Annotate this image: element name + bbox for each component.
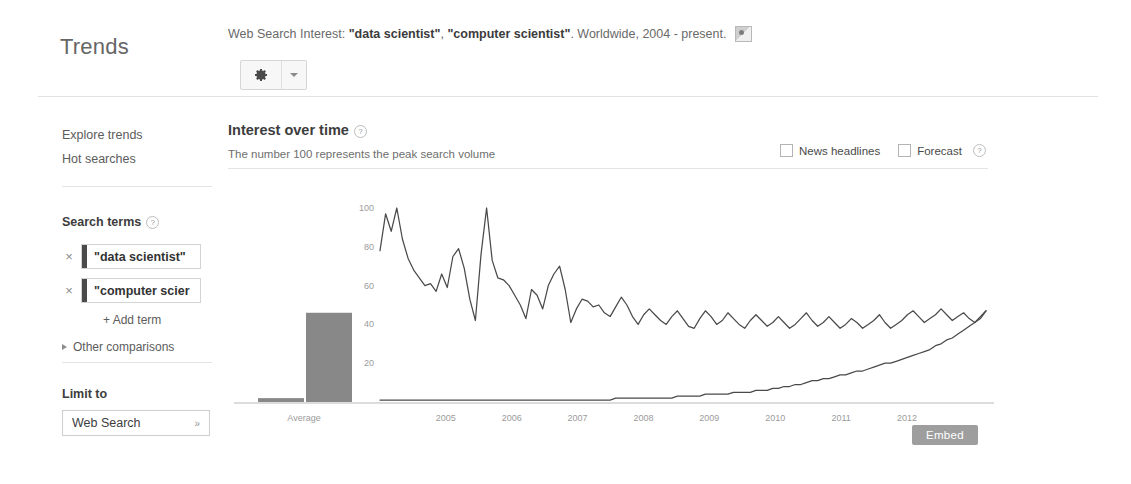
other-comparisons-toggle[interactable]: Other comparisons	[62, 340, 174, 354]
trends-chart[interactable]: 20406080100Average2005200620072008200920…	[228, 174, 998, 464]
settings-button-group[interactable]	[240, 60, 307, 90]
y-axis-tick-100: 100	[359, 203, 374, 213]
search-terms-label: Search terms	[62, 215, 141, 229]
interest-over-time-subtitle: The number 100 represents the peak searc…	[228, 148, 495, 160]
other-comparisons-label: Other comparisons	[73, 340, 174, 354]
sidebar-divider-top	[62, 186, 212, 187]
image-thumbnail-icon[interactable]	[735, 26, 752, 42]
search-term-input-2[interactable]: "computer scier	[81, 278, 201, 303]
chart-options: News headlines Forecast ?	[780, 144, 986, 157]
x-axis-tick-2012: 2012	[897, 413, 917, 423]
title-suffix: . Worldwide, 2004 - present.	[570, 27, 726, 41]
chevron-down-icon[interactable]	[282, 61, 306, 89]
search-term-input-2-value: "computer scier	[87, 284, 190, 298]
x-axis-tick-2007: 2007	[568, 413, 588, 423]
average-axis-label: Average	[287, 413, 320, 423]
series-line-1[interactable]	[380, 208, 986, 328]
search-term-input-1[interactable]: "data scientist"	[81, 244, 201, 269]
sidebar: Explore trends Hot searches Search terms…	[0, 110, 226, 484]
search-term-input-1-value: "data scientist"	[87, 250, 186, 264]
embed-button[interactable]: Embed	[912, 425, 978, 445]
x-axis-tick-2006: 2006	[502, 413, 522, 423]
x-axis-tick-2010: 2010	[765, 413, 785, 423]
forecast-label: Forecast	[917, 145, 962, 157]
interest-over-time-label: Interest over time	[228, 122, 349, 138]
main-divider	[228, 168, 988, 169]
sidebar-divider-bottom	[62, 362, 212, 363]
x-axis-tick-2008: 2008	[633, 413, 653, 423]
search-term-row-2: × "computer scier	[62, 278, 201, 303]
limit-to-select[interactable]: Web Search »	[62, 410, 210, 436]
y-axis-tick-20: 20	[364, 358, 374, 368]
remove-term-1-icon[interactable]: ×	[62, 250, 76, 263]
limit-to-caret-icon: »	[194, 418, 200, 429]
forecast-option[interactable]: Forecast ?	[898, 144, 986, 157]
average-bar-2[interactable]	[306, 313, 352, 402]
brand-title: Trends	[60, 34, 129, 60]
news-headlines-option[interactable]: News headlines	[780, 144, 880, 157]
sidebar-item-explore-trends[interactable]: Explore trends	[62, 128, 143, 142]
y-axis-tick-60: 60	[364, 281, 374, 291]
limit-to-value: Web Search	[72, 416, 141, 430]
add-term-button[interactable]: + Add term	[103, 313, 161, 327]
triangle-right-icon	[62, 344, 67, 350]
title-term-1: "data scientist"	[349, 27, 441, 41]
interest-over-time-heading: Interest over time?	[228, 122, 367, 138]
help-icon[interactable]: ?	[146, 216, 159, 229]
help-icon[interactable]: ?	[973, 144, 986, 157]
average-bar-1[interactable]	[258, 398, 304, 402]
x-axis-tick-2011: 2011	[831, 413, 850, 423]
series-line-2[interactable]	[380, 311, 986, 400]
x-axis-tick-2009: 2009	[699, 413, 719, 423]
title-prefix: Web Search Interest:	[228, 27, 349, 41]
chart-canvas[interactable]: 20406080100Average2005200620072008200920…	[228, 174, 998, 464]
search-terms-heading: Search terms?	[62, 215, 159, 229]
news-headlines-label: News headlines	[799, 145, 880, 157]
remove-term-2-icon[interactable]: ×	[62, 284, 76, 297]
limit-to-heading: Limit to	[62, 387, 107, 401]
gear-icon[interactable]	[241, 61, 282, 89]
header-divider	[38, 96, 1098, 97]
title-term-2: "computer scientist"	[447, 27, 570, 41]
news-headlines-checkbox[interactable]	[780, 144, 793, 157]
sidebar-item-hot-searches[interactable]: Hot searches	[62, 152, 136, 166]
forecast-checkbox[interactable]	[898, 144, 911, 157]
y-axis-tick-80: 80	[364, 242, 374, 252]
x-axis-tick-2005: 2005	[436, 413, 456, 423]
y-axis-tick-40: 40	[364, 319, 374, 329]
search-term-row-1: × "data scientist"	[62, 244, 201, 269]
help-icon[interactable]: ?	[354, 125, 367, 138]
page-header: Trends Web Search Interest: "data scient…	[0, 0, 1131, 96]
caret-shape	[290, 73, 298, 77]
search-interest-title: Web Search Interest: "data scientist", "…	[228, 26, 752, 42]
